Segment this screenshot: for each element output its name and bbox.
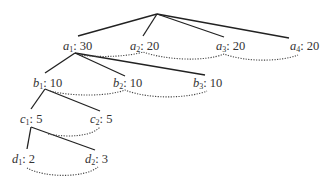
node-a1-value: : 30 xyxy=(73,39,92,53)
node-c1: c1: 5 xyxy=(20,113,42,127)
node-b1: b1: 10 xyxy=(33,77,62,91)
node-d2: d2: 3 xyxy=(85,153,108,167)
node-b2-value: : 10 xyxy=(123,76,142,90)
sibling-links xyxy=(27,52,298,175)
edge-c1-d1 xyxy=(27,127,31,149)
node-b3: b3: 10 xyxy=(193,77,222,91)
dotted-link-b-level xyxy=(50,90,207,97)
dotted-link-d-level xyxy=(27,167,98,175)
edge-a1-b1 xyxy=(45,53,75,73)
node-a2: a2: 20 xyxy=(130,40,159,54)
edge-a1-b3 xyxy=(75,53,205,75)
node-b1-value: : 10 xyxy=(43,76,62,90)
node-c2: c2: 5 xyxy=(90,113,112,127)
node-d1: d1: 2 xyxy=(12,153,35,167)
node-a3-value: : 20 xyxy=(226,39,245,53)
node-c2-value: : 5 xyxy=(100,112,113,126)
node-b3-value: : 10 xyxy=(203,76,222,90)
node-b2: b2: 10 xyxy=(113,77,142,91)
node-c1-value: : 5 xyxy=(30,112,43,126)
node-a4-value: : 20 xyxy=(300,39,319,53)
edge-b1-c1 xyxy=(31,89,45,109)
node-a2-value: : 20 xyxy=(140,39,159,53)
edge-b1-c2 xyxy=(45,89,100,111)
node-a1: a1: 30 xyxy=(63,40,92,54)
node-a3: a3: 20 xyxy=(216,40,245,54)
node-d1-value: : 2 xyxy=(22,152,35,166)
dotted-link-c-level xyxy=(48,127,100,136)
node-a4: a4: 20 xyxy=(290,40,319,54)
node-d2-value: : 3 xyxy=(95,152,108,166)
tree-diagram xyxy=(0,0,328,186)
tree-edges xyxy=(27,14,289,150)
edge-root-a3 xyxy=(157,14,224,37)
edge-root-a4 xyxy=(157,14,289,38)
edge-c1-d2 xyxy=(31,127,95,150)
